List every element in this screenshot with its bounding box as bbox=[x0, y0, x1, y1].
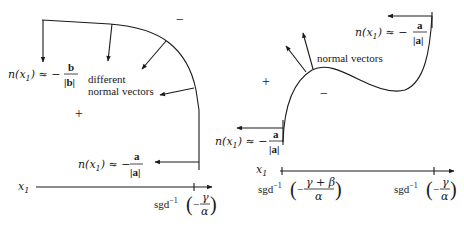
svg-text:sgd−1: sgd−1 bbox=[394, 181, 418, 195]
svg-text:n(x1) ≈ −: n(x1) ≈ − bbox=[355, 26, 407, 41]
left-plus-sign: + bbox=[75, 106, 83, 121]
svg-text:n(x1) ≈ −: n(x1) ≈ − bbox=[78, 158, 130, 173]
svg-text:γ + β: γ + β bbox=[306, 176, 335, 189]
left-panel: − + n(x1) ≈ − b |b| different normal vec… bbox=[8, 12, 217, 218]
svg-text:): ) bbox=[335, 178, 342, 201]
svg-text:b: b bbox=[68, 61, 74, 73]
left-axis-label: x1 bbox=[18, 180, 29, 195]
annotation-normal-vectors-left: normal vectors bbox=[88, 85, 154, 97]
right-normal-arrow-1 bbox=[286, 46, 306, 72]
svg-text:γ: γ bbox=[442, 176, 449, 189]
left-tick-label: sgd−1 ( − γ α ) bbox=[154, 191, 217, 218]
normal-arrow-2 bbox=[108, 24, 112, 61]
annotation-different: different bbox=[88, 73, 126, 85]
svg-text:n(x1) ≈ −: n(x1) ≈ − bbox=[215, 135, 267, 150]
svg-text:−: − bbox=[297, 183, 303, 195]
svg-text:−: − bbox=[433, 183, 439, 195]
svg-text:γ: γ bbox=[202, 191, 209, 204]
diagram-canvas: − + n(x1) ≈ − b |b| different normal vec… bbox=[0, 0, 464, 232]
right-tick-label-right: sgd−1 ( − γ α ) bbox=[394, 176, 457, 203]
svg-text:|a|: |a| bbox=[269, 143, 279, 155]
svg-text:(: ( bbox=[290, 178, 297, 201]
left-minus-sign: − bbox=[176, 12, 184, 27]
svg-text:α: α bbox=[315, 190, 323, 203]
right-plus-sign: + bbox=[262, 74, 270, 89]
right-minus-sign: − bbox=[320, 86, 328, 101]
svg-text:−: − bbox=[193, 198, 199, 210]
right-panel: + − normal vectors n(x1) ≈ − a |a| n(x1)… bbox=[215, 12, 457, 203]
svg-text:): ) bbox=[210, 193, 217, 216]
svg-text:a: a bbox=[417, 19, 423, 31]
label-normal-a-bottom: n(x1) ≈ − a |a| bbox=[215, 128, 283, 155]
svg-text:a: a bbox=[134, 150, 140, 162]
label-normal-a-top: n(x1) ≈ − a |a| bbox=[355, 19, 427, 46]
normal-arrow-4 bbox=[160, 88, 194, 95]
right-normal-arrow-2 bbox=[303, 33, 313, 69]
svg-text:(: ( bbox=[426, 178, 433, 201]
right-axis-label: x1 bbox=[256, 163, 267, 178]
svg-text:α: α bbox=[441, 190, 449, 203]
svg-text:|a|: |a| bbox=[413, 34, 423, 46]
annotation-normal-vectors-right: normal vectors bbox=[317, 52, 383, 64]
svg-text:sgd−1: sgd−1 bbox=[154, 196, 178, 210]
label-normal-b: n(x1) ≈ − b |b| bbox=[8, 61, 78, 88]
svg-text:|a|: |a| bbox=[130, 166, 140, 178]
svg-text:|b|: |b| bbox=[64, 76, 75, 88]
svg-text:n(x1) ≈ −: n(x1) ≈ − bbox=[8, 68, 60, 83]
svg-text:(: ( bbox=[186, 193, 193, 216]
svg-text:α: α bbox=[201, 205, 209, 218]
svg-text:): ) bbox=[450, 178, 457, 201]
normal-arrow-3 bbox=[142, 41, 166, 69]
svg-text:a: a bbox=[273, 128, 279, 140]
right-tick-label-left: sgd−1 ( − γ + β α ) bbox=[258, 176, 342, 203]
label-normal-a-left: n(x1) ≈ − a |a| bbox=[78, 150, 143, 178]
svg-text:sgd−1: sgd−1 bbox=[258, 181, 282, 195]
